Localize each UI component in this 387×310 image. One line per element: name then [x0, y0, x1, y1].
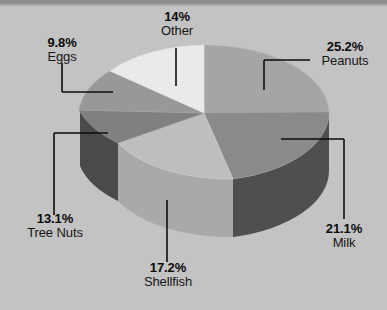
- label-eggs-name: Eggs: [28, 50, 96, 64]
- label-treenuts-name: Tree Nuts: [10, 226, 100, 240]
- label-other-name: Other: [146, 24, 208, 38]
- label-milk-name: Milk: [312, 236, 376, 250]
- label-peanuts-pct: 25.2%: [306, 40, 384, 54]
- label-other-pct: 14%: [146, 10, 208, 24]
- label-treenuts-pct: 13.1%: [10, 212, 100, 226]
- chart-canvas: 14% Other 25.2% Peanuts 9.8% Eggs 13.1% …: [0, 0, 387, 310]
- label-milk: 21.1% Milk: [312, 222, 376, 250]
- label-eggs-pct: 9.8%: [28, 36, 96, 50]
- label-treenuts: 13.1% Tree Nuts: [10, 212, 100, 240]
- label-shellfish-name: Shellfish: [124, 275, 212, 289]
- label-shellfish-pct: 17.2%: [124, 261, 212, 275]
- label-peanuts-name: Peanuts: [306, 54, 384, 68]
- label-peanuts: 25.2% Peanuts: [306, 40, 384, 68]
- label-shellfish: 17.2% Shellfish: [124, 261, 212, 289]
- label-milk-pct: 21.1%: [312, 222, 376, 236]
- label-eggs: 9.8% Eggs: [28, 36, 96, 64]
- label-other: 14% Other: [146, 10, 208, 38]
